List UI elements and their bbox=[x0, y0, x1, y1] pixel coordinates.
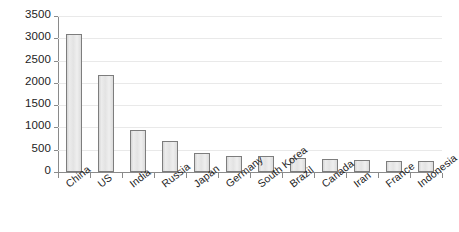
x-axis-tick-mark bbox=[154, 173, 155, 178]
bar bbox=[98, 75, 114, 172]
x-axis-category-label: US bbox=[95, 171, 114, 190]
gridline bbox=[58, 38, 442, 39]
gridline bbox=[58, 150, 442, 151]
x-axis-tick-mark bbox=[58, 173, 59, 178]
gridline bbox=[58, 105, 442, 106]
y-axis-tick-label: 3500 bbox=[0, 8, 51, 20]
bar-chart: 0500100015002000250030003500 ChinaUSIndi… bbox=[0, 0, 459, 232]
x-axis-category-label-text: US bbox=[95, 171, 114, 190]
plot-area bbox=[58, 16, 442, 172]
y-axis-tick-label: 2500 bbox=[0, 53, 51, 65]
y-axis-tick-label: 1000 bbox=[0, 119, 51, 131]
gridline bbox=[58, 16, 442, 17]
bar bbox=[66, 34, 82, 172]
x-axis-tick-mark bbox=[122, 173, 123, 178]
gridline bbox=[58, 127, 442, 128]
y-axis-tick-label: 3000 bbox=[0, 30, 51, 42]
gridline bbox=[58, 61, 442, 62]
y-axis-tick-label: 500 bbox=[0, 142, 51, 154]
gridline bbox=[58, 83, 442, 84]
y-axis-tick-label: 2000 bbox=[0, 75, 51, 87]
y-axis-tick-label: 1500 bbox=[0, 97, 51, 109]
y-axis-tick-label: 0 bbox=[0, 164, 51, 176]
x-axis-tick-mark bbox=[378, 173, 379, 178]
